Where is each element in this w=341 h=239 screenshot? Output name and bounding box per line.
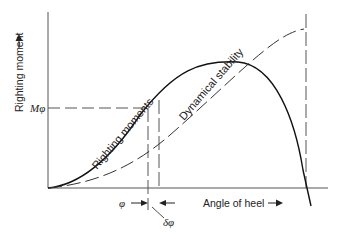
stability-diagram: Righting moments Dynamical stability Rig… <box>0 0 341 239</box>
righting-moments-label: Righting moments <box>89 95 155 171</box>
delta-phi-label: δφ <box>163 216 174 228</box>
moment-marker-label: Mφ <box>29 102 45 114</box>
righting-moments-curve <box>48 62 311 206</box>
phi-arrow-icon <box>131 200 148 206</box>
x-axis-arrow-icon <box>268 200 283 207</box>
dynamical-stability-label: Dynamical stability <box>176 45 245 122</box>
delta-phi-arrow-icon <box>159 200 175 206</box>
x-axis-label: Angle of heel <box>203 197 264 209</box>
phi-label: φ <box>119 197 125 209</box>
